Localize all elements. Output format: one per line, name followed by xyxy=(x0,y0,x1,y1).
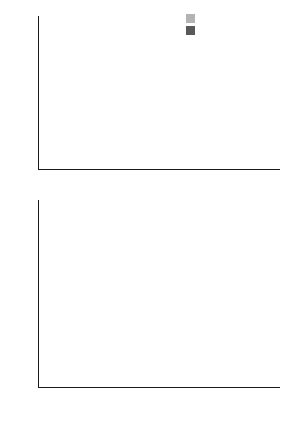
x-axis-labels xyxy=(38,390,280,391)
figure-root xyxy=(0,0,288,432)
plot-area-species xyxy=(38,16,280,170)
chart-panel-density xyxy=(0,190,288,432)
plot-area-density xyxy=(38,200,280,388)
legend-swatch-2005 xyxy=(186,26,195,35)
legend-item-1975 xyxy=(186,14,201,23)
chart-panel-species xyxy=(0,0,288,190)
bar-series-density xyxy=(38,200,280,388)
bar-series-species xyxy=(38,16,280,170)
legend-swatch-1975 xyxy=(186,14,195,23)
legend-item-2005 xyxy=(186,26,201,35)
legend xyxy=(186,14,201,38)
